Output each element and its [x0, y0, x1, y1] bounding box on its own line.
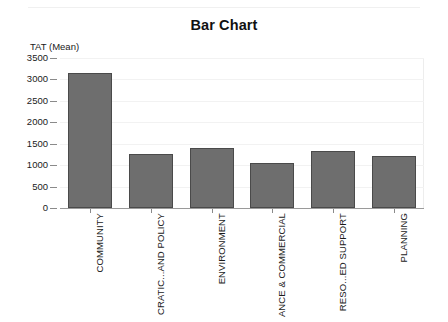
bar-chart-figure: Bar Chart TAT (Mean) 0500100015002000250… [0, 0, 448, 322]
bar[interactable] [372, 156, 416, 208]
bar[interactable] [311, 151, 355, 208]
top-divider [28, 7, 420, 8]
x-axis-tick-mark [151, 209, 152, 213]
y-axis-tick-label: 3500 [27, 52, 48, 63]
y-axis-tick-label: 500 [32, 181, 48, 192]
x-axis-tick-label: RESO...ED SUPPORT [337, 213, 348, 311]
bar[interactable] [250, 163, 294, 208]
x-axis-tick-label: ENVIRONMENT [216, 213, 227, 284]
x-axis-tick-label: ANCE & COMMERCIAL [276, 213, 287, 317]
y-axis-tick-mark [50, 208, 57, 209]
bar[interactable] [190, 148, 234, 208]
x-axis-baseline [60, 208, 424, 209]
y-axis-tick-label: 2000 [27, 116, 48, 127]
x-axis-tick-label: COMMUNITY [94, 213, 105, 272]
bar[interactable] [129, 154, 173, 208]
y-axis-title: TAT (Mean) [30, 41, 79, 52]
y-axis-tick-label: 0 [43, 202, 48, 213]
y-axis-tick-mark [50, 122, 57, 123]
x-axis-tick-label: PLANNING [398, 213, 409, 262]
y-axis: 0500100015002000250030003500 [0, 58, 60, 208]
bar[interactable] [68, 73, 112, 208]
x-axis-tick-mark [333, 209, 334, 213]
y-axis-tick-mark [50, 58, 57, 59]
y-axis-tick-mark [50, 79, 57, 80]
x-axis-tick-label: CRATIC...AND POLICY [155, 213, 166, 315]
bars-group [60, 58, 424, 208]
x-axis-tick-mark [212, 209, 213, 213]
y-axis-tick-label: 2500 [27, 95, 48, 106]
y-axis-tick-mark [50, 144, 57, 145]
y-axis-tick-label: 1000 [27, 159, 48, 170]
x-axis-tick-mark [90, 209, 91, 213]
x-axis-tick-mark [394, 209, 395, 213]
y-axis-tick-mark [50, 165, 57, 166]
y-axis-tick-label: 1500 [27, 138, 48, 149]
y-axis-tick-mark [50, 187, 57, 188]
x-axis-tick-mark [272, 209, 273, 213]
chart-title: Bar Chart [0, 17, 448, 33]
y-axis-tick-label: 3000 [27, 73, 48, 84]
y-axis-tick-mark [50, 101, 57, 102]
